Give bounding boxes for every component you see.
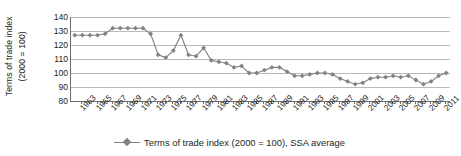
y-axis-title-line-2: (2000 = 100) bbox=[15, 0, 29, 112]
data-point-marker bbox=[383, 75, 388, 80]
data-point-marker bbox=[285, 69, 290, 74]
data-point-marker bbox=[398, 75, 403, 80]
data-point-marker bbox=[156, 52, 161, 57]
data-point-marker bbox=[338, 76, 343, 81]
data-point-marker bbox=[391, 73, 396, 78]
data-point-marker bbox=[444, 71, 449, 76]
y-axis-tick-labels: 1401301201101009080 bbox=[38, 0, 68, 112]
data-point-marker bbox=[209, 58, 214, 63]
data-point-marker bbox=[179, 33, 184, 38]
data-point-marker bbox=[269, 65, 274, 70]
series-polyline bbox=[75, 28, 446, 84]
data-point-marker bbox=[216, 59, 221, 64]
plot-area bbox=[70, 17, 450, 102]
data-point-marker bbox=[186, 52, 191, 57]
y-tick-label: 120 bbox=[54, 41, 68, 50]
data-point-marker bbox=[307, 72, 312, 77]
data-point-marker bbox=[254, 71, 259, 76]
data-point-marker bbox=[277, 65, 282, 70]
data-point-marker bbox=[345, 79, 350, 84]
data-point-marker bbox=[232, 65, 237, 70]
y-axis-title: Terms of trade index (2000 = 100) bbox=[0, 0, 30, 112]
data-point-marker bbox=[133, 26, 138, 31]
data-point-marker bbox=[360, 80, 365, 85]
data-point-marker bbox=[292, 73, 297, 78]
y-tick-label: 100 bbox=[54, 69, 68, 78]
data-point-marker bbox=[95, 33, 100, 38]
x-axis-tick-labels: 1963196519671969197119731975197719791981… bbox=[0, 101, 459, 137]
data-point-marker bbox=[353, 82, 358, 87]
legend-label: Terms of trade index (2000 = 100), SSA a… bbox=[144, 137, 345, 148]
series-line bbox=[71, 17, 451, 101]
data-point-marker bbox=[376, 75, 381, 80]
data-point-marker bbox=[315, 71, 320, 76]
data-point-marker bbox=[406, 73, 411, 78]
data-point-marker bbox=[300, 73, 305, 78]
data-point-marker bbox=[413, 78, 418, 83]
y-axis-title-text-2: (2000 = 100) bbox=[18, 31, 27, 81]
data-point-marker bbox=[80, 33, 85, 38]
data-point-marker bbox=[323, 71, 328, 76]
data-point-marker bbox=[368, 76, 373, 81]
data-point-marker bbox=[330, 72, 335, 77]
y-tick-label: 90 bbox=[58, 83, 68, 92]
data-point-marker bbox=[72, 33, 77, 38]
y-tick-label: 110 bbox=[54, 55, 68, 64]
data-point-marker bbox=[421, 82, 426, 87]
data-point-marker bbox=[125, 26, 130, 31]
y-axis-title-text-1: Terms of trade index bbox=[5, 16, 14, 96]
y-tick-label: 140 bbox=[54, 13, 68, 22]
legend-entry: Terms of trade index (2000 = 100), SSA a… bbox=[114, 137, 345, 148]
data-point-marker bbox=[88, 33, 93, 38]
data-point-marker bbox=[118, 26, 123, 31]
legend: Terms of trade index (2000 = 100), SSA a… bbox=[0, 133, 459, 151]
data-point-marker bbox=[262, 68, 267, 73]
data-point-marker bbox=[224, 61, 229, 66]
y-axis-title-line-1: Terms of trade index bbox=[2, 0, 16, 112]
legend-diamond-icon bbox=[114, 137, 140, 147]
y-tick-label: 130 bbox=[54, 27, 68, 36]
